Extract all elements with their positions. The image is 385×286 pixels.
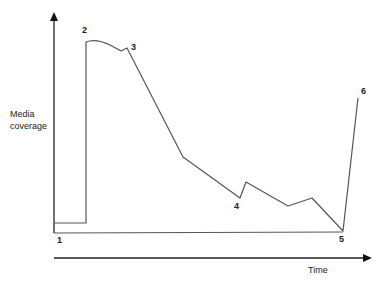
point-label-1: 1 [57,235,62,245]
x-axis-label: Time [308,265,328,275]
y-axis-arrowhead [50,12,58,21]
y-axis-label-line1: Media [10,109,35,119]
media-coverage-diagram: 1 2 3 4 5 6 Media coverage Time [0,0,385,286]
time-axis-arrowhead [363,254,372,262]
point-label-3: 3 [131,42,136,52]
point-label-4: 4 [234,201,239,211]
point-label-2: 2 [82,25,87,35]
point-label-6: 6 [361,86,366,96]
y-axis-label-line2: coverage [10,121,47,131]
coverage-line [55,41,358,231]
point-label-5: 5 [339,234,344,244]
baseline [54,232,343,233]
